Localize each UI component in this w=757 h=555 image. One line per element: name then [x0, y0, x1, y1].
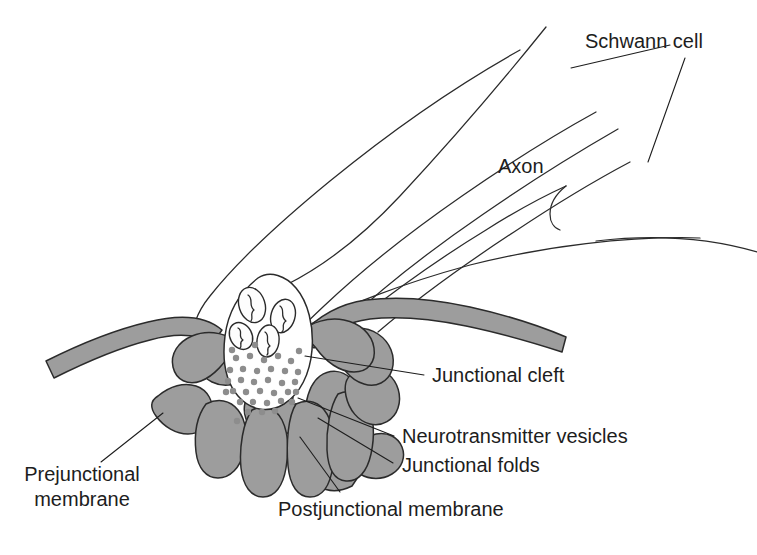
vesicle — [292, 379, 298, 385]
vesicle — [279, 380, 285, 386]
vesicle — [257, 388, 263, 394]
vesicle — [289, 399, 295, 405]
label-schwann-cell: Schwann cell — [585, 30, 703, 52]
diagram-canvas: Schwann cell Axon Junctional cleft Neuro… — [0, 0, 757, 555]
vesicle — [264, 400, 270, 406]
label-prejunctional-membrane-line1: Prejunctional — [24, 463, 140, 485]
vesicle — [259, 409, 265, 415]
vesicle — [237, 399, 243, 405]
fold-2 — [195, 401, 246, 478]
vesicle — [285, 389, 291, 395]
vesicle — [295, 369, 301, 375]
vesicle — [288, 358, 294, 364]
vesicle — [245, 409, 251, 415]
label-prejunctional-membrane-line2: membrane — [34, 488, 130, 510]
vesicle — [229, 347, 235, 353]
fold-3 — [240, 407, 287, 497]
label-junctional-cleft: Junctional cleft — [432, 364, 565, 386]
vesicle — [296, 348, 302, 354]
vesicle — [293, 389, 299, 395]
vesicle — [233, 355, 239, 361]
vesicle — [243, 389, 249, 395]
label-axon: Axon — [498, 155, 544, 177]
vesicle — [223, 389, 229, 395]
vesicle — [251, 379, 257, 385]
vesicle — [268, 366, 274, 372]
leader-schwann-cell-down — [648, 58, 685, 162]
vesicle — [261, 357, 267, 363]
vesicle — [282, 368, 288, 374]
vesicle — [278, 398, 284, 404]
vesicle — [230, 388, 236, 394]
schwann-inner-edge-2 — [344, 129, 618, 324]
neuromuscular-junction-figure: Schwann cell Axon Junctional cleft Neuro… — [0, 0, 757, 555]
vesicle — [238, 377, 244, 383]
vesicle — [227, 367, 233, 373]
leader-prejunctional-membrane — [101, 413, 163, 462]
vesicle — [275, 353, 281, 359]
vesicle — [250, 399, 256, 405]
vesicle — [271, 390, 277, 396]
vesicle — [247, 353, 253, 359]
label-postjunctional-membrane: Postjunctional membrane — [278, 498, 504, 520]
vesicle — [240, 366, 246, 372]
label-neurotransmitter-vesicles: Neurotransmitter vesicles — [402, 425, 628, 447]
vesicle — [225, 378, 231, 384]
vesicle — [254, 368, 260, 374]
label-junctional-folds: Junctional folds — [402, 454, 540, 476]
vesicle — [265, 377, 271, 383]
vesicle — [272, 408, 278, 414]
vesicle — [252, 342, 258, 348]
vesicle — [234, 418, 240, 424]
